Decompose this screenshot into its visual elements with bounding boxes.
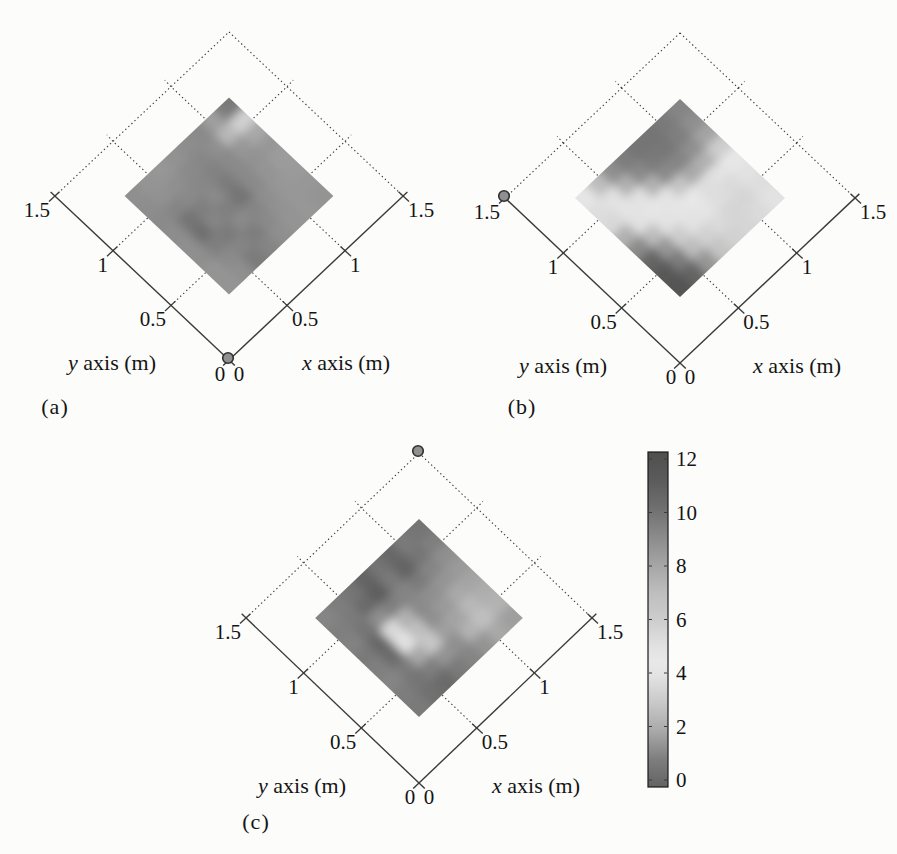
back-tick: [534, 556, 540, 563]
marker-dot-a: [223, 353, 234, 364]
x-axis-tick: [851, 194, 862, 204]
y-axis-tick: [557, 249, 568, 259]
y-axis-tick: [355, 724, 366, 734]
back-tick: [557, 136, 563, 143]
back-tick: [738, 81, 744, 88]
plot-a-heat-cells: [92, 67, 366, 325]
y-axis-tick: [240, 614, 251, 624]
x-axis-tick: [792, 249, 803, 259]
back-tick: [165, 80, 171, 87]
back-tick: [355, 501, 361, 508]
x-axis-tick: [472, 724, 483, 734]
y-axis-tick: [616, 304, 627, 314]
figure-canvas: 0.50.5111.51.500y axis (m)x axis (m)(a)0…: [0, 0, 897, 854]
plot-c-heatmap: [283, 488, 555, 747]
y-axis-tick: [298, 669, 309, 679]
plot-a-heatmap: [92, 67, 366, 325]
marker-dot-c: [413, 446, 424, 457]
plot-c-heat-cells: [283, 488, 555, 747]
plot-b: [499, 33, 861, 368]
heatmap-plots: [49, 32, 861, 789]
back-tick: [297, 556, 303, 563]
plot-c: [240, 446, 598, 789]
back-tick: [797, 136, 803, 143]
back-tick: [107, 135, 113, 142]
plot-b-heat-cells: [542, 68, 817, 327]
plot-a: [49, 32, 409, 365]
figure-svg: [0, 0, 897, 854]
y-axis-tick: [165, 301, 176, 311]
x-axis-tick: [530, 669, 541, 679]
back-tick: [287, 80, 293, 87]
plot-b-heatmap: [542, 68, 817, 327]
back-tick: [477, 501, 483, 508]
x-axis-tick: [399, 192, 410, 202]
x-axis-tick: [341, 246, 352, 256]
back-tick: [615, 81, 621, 88]
x-axis-tick: [734, 304, 745, 314]
y-axis-tick: [49, 192, 60, 202]
y-axis-tick: [107, 246, 118, 256]
colorbar: [648, 452, 668, 787]
x-axis-tick: [283, 301, 294, 311]
marker-dot-b: [499, 191, 510, 202]
back-tick: [345, 135, 351, 142]
x-axis-tick: [588, 614, 599, 624]
